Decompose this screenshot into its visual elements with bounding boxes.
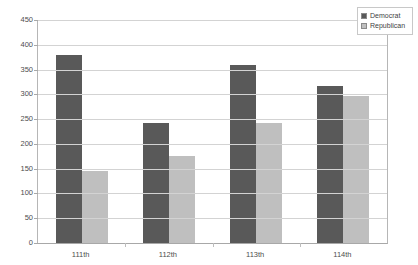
- gridline: [38, 169, 387, 170]
- y-tick-label: 300: [20, 90, 33, 98]
- gridline: [38, 144, 387, 145]
- y-tick-label: 200: [20, 140, 33, 148]
- x-tick-label-112th: 112th: [124, 250, 211, 259]
- y-tick-mark: [34, 94, 38, 95]
- bar-114th-democrat: [317, 86, 343, 243]
- y-tick-mark: [34, 218, 38, 219]
- legend-label-democrat: Democrat: [370, 12, 400, 20]
- gridline: [38, 20, 387, 21]
- y-tick-mark: [34, 20, 38, 21]
- y-tick-label: 100: [20, 189, 33, 197]
- x-tick-label-111th: 111th: [37, 250, 124, 259]
- gridline: [38, 45, 387, 46]
- y-tick-label: 150: [20, 165, 33, 173]
- gridline: [38, 70, 387, 71]
- y-tick-mark: [34, 70, 38, 71]
- y-tick-label: 250: [20, 115, 33, 123]
- x-tick-label-113th: 113th: [212, 250, 299, 259]
- y-tick-mark: [34, 119, 38, 120]
- legend-item-democrat: Democrat: [361, 11, 410, 21]
- gridline: [38, 218, 387, 219]
- x-tick-label-114th: 114th: [299, 250, 386, 259]
- x-tick-mark: [213, 243, 214, 247]
- y-tick-label: 400: [20, 41, 33, 49]
- x-tick-mark: [125, 243, 126, 247]
- y-tick-label: 350: [20, 66, 33, 74]
- bar-113th-republican: [256, 123, 282, 243]
- y-tick-mark: [34, 243, 38, 244]
- legend-swatch-republican-icon: [361, 23, 367, 29]
- gridline: [38, 94, 387, 95]
- y-tick-label: 450: [20, 16, 33, 24]
- bars-layer: [38, 20, 387, 243]
- legend-label-republican: Republican: [370, 22, 405, 30]
- bar-111th-republican: [82, 171, 108, 243]
- gridline: [38, 193, 387, 194]
- bar-chart: 050100150200250300350400450 Democrat Rep…: [0, 0, 418, 265]
- y-axis: 050100150200250300350400450: [0, 0, 33, 265]
- legend-swatch-democrat-icon: [361, 13, 367, 19]
- y-tick-mark: [34, 169, 38, 170]
- x-tick-mark: [300, 243, 301, 247]
- bar-111th-democrat: [56, 55, 82, 243]
- bar-113th-democrat: [230, 65, 256, 243]
- chart-legend: Democrat Republican: [357, 7, 413, 35]
- y-tick-mark: [34, 45, 38, 46]
- legend-item-republican: Republican: [361, 21, 410, 31]
- plot-area: [37, 20, 388, 244]
- y-tick-mark: [34, 193, 38, 194]
- y-tick-label: 50: [25, 214, 33, 222]
- bar-112th-democrat: [143, 123, 169, 243]
- y-tick-mark: [34, 144, 38, 145]
- gridline: [38, 119, 387, 120]
- y-tick-label: 0: [29, 239, 33, 247]
